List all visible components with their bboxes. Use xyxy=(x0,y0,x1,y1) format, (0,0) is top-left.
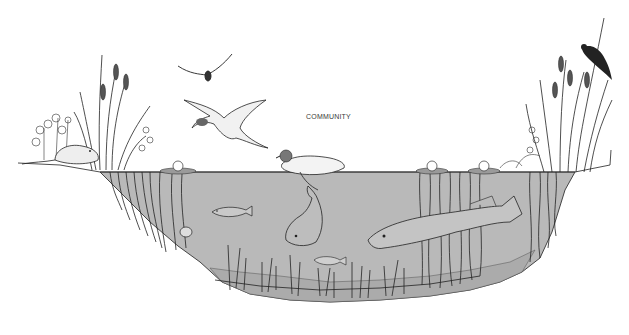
right-cattail-heads xyxy=(553,56,590,98)
right-cattails xyxy=(526,18,612,172)
right-shore-ground xyxy=(575,150,611,172)
right-shrubs xyxy=(500,127,540,168)
community-label: COMMUNITY xyxy=(306,113,351,120)
muskrat xyxy=(22,145,98,164)
pond-community-illustration xyxy=(0,0,629,335)
flying-duck-small xyxy=(178,54,232,81)
snail xyxy=(180,227,192,237)
left-shore-ground xyxy=(18,163,100,172)
left-cattail-heads xyxy=(101,64,129,100)
flying-mallard xyxy=(184,100,268,148)
